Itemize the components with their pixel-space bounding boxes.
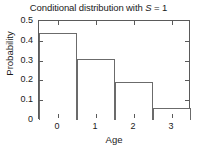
y-tick-mark-1	[39, 100, 43, 101]
x-tick-mark-top-1	[96, 21, 97, 25]
x-tick-mark-0	[58, 114, 59, 118]
y-tick-label-1: 0.1	[20, 94, 33, 104]
y-tick-mark-3	[39, 61, 43, 62]
x-tick-mark-top-2	[134, 21, 135, 25]
y-tick-label-3: 0.3	[20, 55, 33, 65]
bar-age-0	[39, 33, 77, 120]
x-tick-mark-3	[172, 114, 173, 118]
bars-layer	[39, 21, 189, 118]
y-tick-label-0: 0	[28, 114, 33, 124]
y-tick-label-2: 0.2	[20, 74, 33, 84]
y-tick-mark-2	[39, 80, 43, 81]
chart-title-prefix: Conditional distribution with	[30, 2, 145, 13]
x-tick-label-0: 0	[54, 121, 59, 131]
y-tick-mark-right-3	[185, 61, 189, 62]
x-tick-label-1: 1	[92, 121, 97, 131]
x-tick-label-3: 3	[168, 121, 173, 131]
y-tick-label-4: 0.4	[20, 35, 33, 45]
x-tick-mark-top-0	[58, 21, 59, 25]
x-axis-label: Age	[38, 134, 190, 145]
y-tick-mark-4	[39, 41, 43, 42]
y-tick-label-5: 0.5	[20, 15, 33, 25]
chart-title-suffix: = 1	[151, 2, 167, 13]
y-tick-mark-right-1	[185, 100, 189, 101]
x-tick-mark-top-3	[172, 21, 173, 25]
chart-figure: Conditional distribution with S = 1 Prob…	[0, 0, 197, 151]
x-axis-tick-labels: 0123	[38, 121, 190, 135]
bar-age-1	[77, 59, 115, 120]
x-tick-mark-1	[96, 114, 97, 118]
y-axis-tick-labels: 00.10.20.30.40.5	[0, 20, 36, 119]
x-tick-label-2: 2	[130, 121, 135, 131]
x-tick-mark-2	[134, 114, 135, 118]
chart-title: Conditional distribution with S = 1	[0, 2, 197, 13]
y-tick-mark-right-4	[185, 41, 189, 42]
y-tick-mark-right-2	[185, 80, 189, 81]
plot-area	[38, 20, 190, 119]
